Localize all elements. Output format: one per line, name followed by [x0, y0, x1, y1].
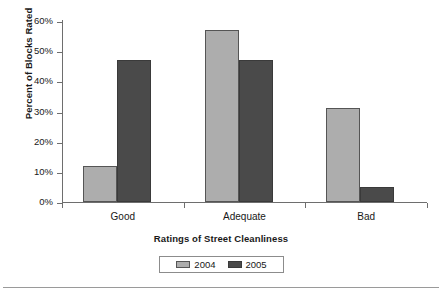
legend-label-2005: 2005	[246, 259, 267, 270]
bar-bad-2004	[326, 108, 360, 202]
y-axis-tick-label: 30%	[34, 106, 53, 117]
legend-swatch-2005	[228, 261, 242, 268]
bar-bad-2005	[360, 187, 394, 202]
y-axis-tick: 60%	[57, 22, 62, 23]
bar-good-2005	[117, 60, 151, 202]
legend-label-2004: 2004	[194, 259, 215, 270]
y-axis-title: Percent of Blocks Rated	[23, 0, 34, 144]
y-axis-tick-label: 10%	[34, 166, 53, 177]
plot-area: 0%10%20%30%40%50%60%	[62, 22, 427, 203]
y-axis-line	[62, 20, 63, 203]
footer-divider	[3, 287, 439, 288]
x-axis-line	[62, 202, 427, 203]
y-axis-tick-label: 60%	[34, 15, 53, 26]
bar-adequate-2005	[239, 60, 273, 202]
y-axis-tick: 50%	[57, 52, 62, 53]
bar-good-2004	[83, 166, 117, 202]
x-axis-tick	[305, 203, 306, 208]
y-axis-tick-label: 0%	[39, 196, 53, 207]
y-axis-tick: 40%	[57, 82, 62, 83]
x-axis-tick	[184, 203, 185, 208]
y-axis-tick: 30%	[57, 113, 62, 114]
bar-chart-figure: Percent of Blocks Rated 0%10%20%30%40%50…	[0, 0, 442, 299]
x-axis-label-good: Good	[63, 211, 183, 222]
x-axis-tick	[62, 203, 63, 208]
y-axis-tick: 20%	[57, 143, 62, 144]
bar-adequate-2004	[205, 30, 239, 202]
chart-legend: 20042005	[159, 256, 284, 273]
legend-swatch-2004	[176, 261, 190, 268]
x-axis-title: Ratings of Street Cleanliness	[0, 233, 442, 244]
x-axis-label-bad: Bad	[306, 211, 426, 222]
y-axis-tick-label: 50%	[34, 45, 53, 56]
x-axis-label-adequate: Adequate	[185, 211, 305, 222]
y-axis-tick-label: 20%	[34, 136, 53, 147]
y-axis-tick-label: 40%	[34, 75, 53, 86]
x-axis-tick	[427, 203, 428, 208]
legend-item-2005[interactable]: 2005	[228, 259, 267, 270]
y-axis-tick: 10%	[57, 173, 62, 174]
legend-item-2004[interactable]: 2004	[176, 259, 215, 270]
